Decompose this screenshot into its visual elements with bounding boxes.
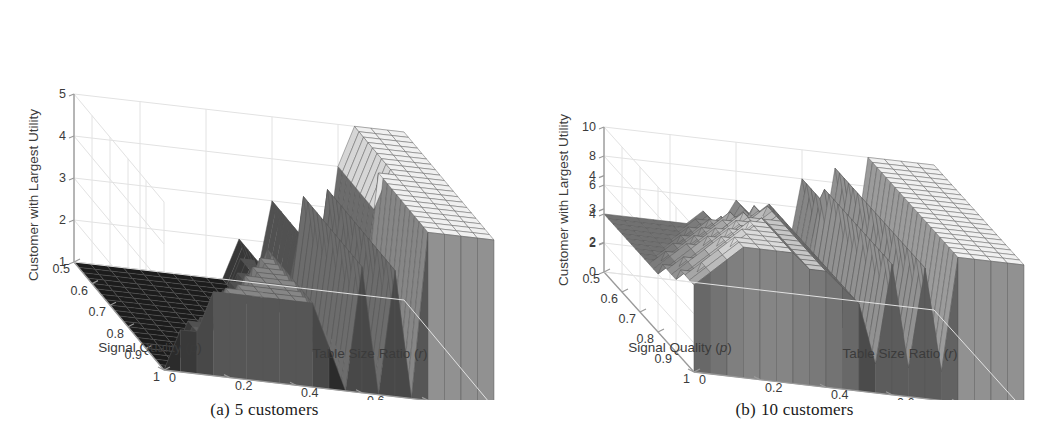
surface-skirt-face	[744, 247, 761, 379]
subcaption-b-text: 10 customers	[761, 400, 854, 419]
surface-skirt-face	[793, 253, 810, 385]
y-tick-mark	[74, 259, 80, 262]
x-tick-label: 0	[699, 373, 706, 387]
x-axis-title: Table Size Ratio (r)	[843, 346, 958, 361]
surface-skirt-face	[280, 299, 297, 385]
surface-skirt-face	[263, 297, 280, 383]
surface-skirt-face	[727, 247, 744, 378]
surface-skirt-face	[826, 271, 843, 389]
y-axis-title: Signal Quality (p)	[98, 340, 202, 355]
y-axis-title: Signal Quality (p)	[628, 340, 732, 355]
z-tick-mark	[599, 127, 604, 129]
z-tick-label: 3	[59, 171, 66, 185]
y-tick-label: 0.5	[583, 272, 600, 286]
z-tick-label: 8	[589, 149, 596, 163]
y-tick-label: 0.7	[619, 312, 636, 326]
z-tick-label: 2	[59, 213, 66, 227]
x-tick-label: 0.4	[301, 386, 318, 400]
surface-skirt-face	[958, 257, 975, 400]
surface-skirt-face	[694, 272, 711, 374]
figure-panel-a: 123450.50.60.70.80.9110.80.60.40.20Custo…	[0, 0, 529, 448]
subcaption-a: (a)5 customers	[0, 400, 529, 420]
subcaption-b: (b)10 customers	[530, 400, 1059, 420]
surface-skirt-face	[711, 260, 728, 376]
surface-skirt-face	[214, 292, 231, 378]
z-axis-title: Customer with Largest Utility	[556, 114, 571, 286]
z-tick-mark	[69, 94, 74, 96]
y-tick-mark	[640, 309, 646, 312]
surface-skirt-face	[843, 288, 860, 391]
figure-container: 123450.50.60.70.80.9110.80.60.40.20Custo…	[0, 0, 1059, 448]
surface-skirt-face	[247, 296, 264, 382]
surface-skirt-face	[1008, 263, 1025, 400]
surface-skirt-face	[810, 269, 827, 387]
z-tick-mark	[69, 220, 74, 222]
y-tick-label: 0.6	[71, 284, 88, 298]
z-tick-mark	[599, 185, 604, 187]
surface-skirt-face	[478, 238, 495, 400]
y-tick-label: 1	[683, 372, 690, 386]
y-tick-label: 1	[153, 370, 160, 384]
x-tick-label: 0.2	[235, 379, 252, 393]
surface-skirt-face	[777, 251, 794, 383]
surface-skirt-face	[230, 294, 247, 380]
z-tick-mark-overlay	[599, 209, 604, 211]
figure-panel-b: 02468102340.50.60.70.80.9110.80.60.40.20…	[530, 0, 1059, 448]
z-tick-label-overlay: 3	[589, 202, 596, 216]
surface-plot-a: 123450.50.60.70.80.9110.80.60.40.20Custo…	[0, 0, 529, 400]
z-tick-mark	[69, 136, 74, 138]
x-tick-label: 0.2	[765, 381, 782, 395]
y-tick-label: 0.6	[601, 292, 618, 306]
z-axis-title: Customer with Largest Utility	[26, 109, 41, 281]
x-axis-title: Table Size Ratio (r)	[313, 346, 428, 361]
z-tick-mark	[599, 156, 604, 158]
x-tick-label: 0.4	[831, 388, 848, 400]
surface-skirt-face	[445, 234, 462, 400]
y-tick-label: 0.7	[89, 305, 106, 319]
z-tick-mark	[599, 214, 604, 216]
z-tick-mark	[69, 178, 74, 180]
y-tick-label: 0.5	[53, 262, 70, 276]
z-tick-label: 5	[59, 87, 66, 101]
z-tick-label-overlay: 4	[589, 169, 596, 183]
z-tick-label: 4	[59, 129, 66, 143]
subcaption-b-tag: (b)	[735, 400, 755, 419]
surface-skirt-face	[461, 236, 478, 400]
y-tick-label: 0.8	[107, 327, 124, 341]
z-tick-label-overlay: 2	[589, 235, 596, 249]
y-tick-mark	[622, 289, 628, 292]
x-tick-label: 0	[169, 371, 176, 385]
surface-skirt-face	[428, 232, 445, 400]
surface-skirt-face	[296, 301, 313, 387]
subcaption-a-tag: (a)	[210, 400, 229, 419]
surface-skirt-face	[991, 261, 1008, 400]
y-axis-line	[604, 272, 694, 372]
surface-plot-b: 02468102340.50.60.70.80.9110.80.60.40.20…	[530, 0, 1059, 400]
surface-skirt-face	[760, 249, 777, 381]
y-tick-mark	[604, 269, 610, 272]
z-tick-label: 10	[582, 120, 596, 134]
y-tick-mark	[658, 329, 664, 332]
subcaption-a-text: 5 customers	[235, 400, 319, 419]
z-tick-mark-overlay	[599, 176, 604, 178]
surface-skirt-face	[975, 259, 992, 400]
